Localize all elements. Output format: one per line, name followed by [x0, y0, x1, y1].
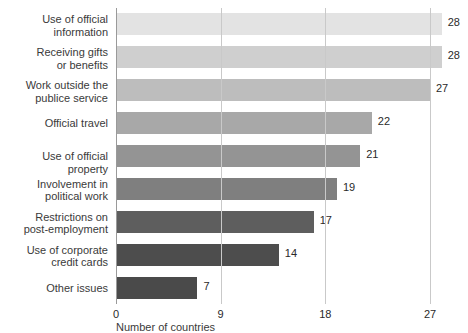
bar-rows: Use of official information28Receiving g…: [116, 8, 430, 304]
bar-value-label: 14: [285, 247, 297, 259]
bar-row: Use of official property21: [116, 145, 468, 167]
category-label: Use of official property: [4, 150, 108, 175]
x-tick-label-18: 18: [319, 308, 331, 320]
category-label: Use of official information: [4, 13, 108, 38]
bar: [116, 178, 337, 200]
x-tick-label-0: 0: [113, 308, 119, 320]
x-axis-ticks: 091827: [116, 308, 430, 322]
category-label: Official travel: [4, 117, 108, 130]
bar-row: Official travel22: [116, 112, 468, 134]
gridline-27: [430, 8, 431, 304]
category-label: Work outside the publice service: [4, 79, 108, 104]
bar-row: Other issues7: [116, 277, 468, 299]
gridline-18: [325, 8, 326, 304]
bar-row: Involvement in political work19: [116, 178, 468, 200]
bar-value-label: 7: [203, 280, 209, 292]
bar: [116, 277, 197, 299]
bar: [116, 244, 279, 266]
bar: [116, 211, 314, 233]
bar-row: Use of corporate credit cards14: [116, 244, 468, 266]
bar-value-label: 19: [343, 181, 355, 193]
bar-value-label: 28: [448, 49, 460, 61]
bar: [116, 112, 372, 134]
category-label: Involvement in political work: [4, 178, 108, 203]
gridline-9: [221, 8, 222, 304]
bar-row: Work outside the publice service27: [116, 79, 468, 101]
category-label: Use of corporate credit cards: [4, 244, 108, 269]
bar-chart: Use of official information28Receiving g…: [0, 0, 468, 333]
x-tick-label-9: 9: [218, 308, 224, 320]
category-label: Restrictions on post-employment: [4, 211, 108, 236]
bar: [116, 46, 442, 68]
bar-value-label: 22: [378, 115, 390, 127]
bar-row: Receiving gifts or benefits28: [116, 46, 468, 68]
bar: [116, 13, 442, 35]
x-axis-title: Number of countries: [116, 321, 215, 333]
bar-row: Use of official information28: [116, 13, 468, 35]
bar-value-label: 21: [366, 148, 378, 160]
x-tick-label-27: 27: [424, 308, 436, 320]
bar: [116, 145, 360, 167]
gridline-0: [116, 8, 117, 304]
category-label: Other issues: [4, 282, 108, 295]
bar-row: Restrictions on post-employment17: [116, 211, 468, 233]
bar-value-label: 27: [436, 82, 448, 94]
category-label: Receiving gifts or benefits: [4, 46, 108, 71]
bar: [116, 79, 430, 101]
plot-area: Use of official information28Receiving g…: [116, 8, 430, 304]
bar-value-label: 28: [448, 16, 460, 28]
